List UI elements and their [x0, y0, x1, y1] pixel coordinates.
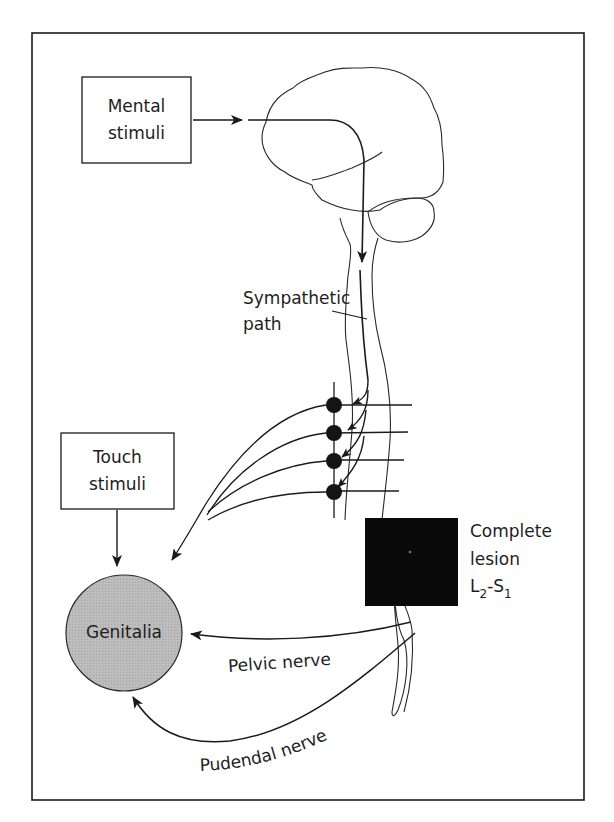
mental-stimuli-label: Mental stimuli — [82, 96, 191, 144]
lesion-block — [365, 518, 458, 606]
level-b: S — [493, 576, 504, 596]
sympathetic-line2: path — [243, 314, 350, 335]
spinal-cord-icon — [345, 276, 413, 716]
brain-icon — [262, 67, 444, 276]
level-b-sub: 1 — [504, 587, 512, 601]
ganglion-dot — [326, 453, 342, 469]
lesion-level: L2-S1 — [470, 576, 552, 599]
lesion-line2: lesion — [470, 549, 552, 570]
mental-stimuli-line1: Mental — [82, 96, 191, 117]
sympathetic-line1: Sympathetic — [243, 288, 350, 309]
descending-path-arrow — [248, 120, 364, 262]
ganglion-dot — [326, 397, 342, 413]
lesion-line1: Complete — [470, 521, 552, 542]
touch-stimuli-label: Touch stimuli — [61, 447, 174, 495]
lesion-speck — [409, 551, 412, 554]
level-a-sub: 2 — [479, 587, 487, 601]
ganglion-dot — [326, 484, 342, 500]
pelvic-nerve-arrow — [191, 622, 411, 639]
touch-stimuli-line2: stimuli — [61, 474, 174, 495]
sympathetic-path-label: Sympathetic path — [243, 288, 350, 335]
descending-path-segment — [360, 270, 361, 296]
mental-stimuli-line2: stimuli — [82, 123, 191, 144]
sympathetic-path-line — [361, 296, 368, 380]
genitalia-label: Genitalia — [82, 622, 166, 643]
pudendal-nerve-label: Pudendal nerve — [199, 725, 329, 775]
postganglionic-fibers — [172, 405, 326, 560]
touch-stimuli-line1: Touch — [61, 447, 174, 468]
ganglion-dot — [326, 425, 342, 441]
lesion-label: Complete lesion L2-S1 — [470, 521, 552, 599]
